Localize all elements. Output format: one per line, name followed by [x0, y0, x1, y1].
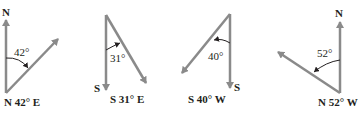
angle-label: 31°	[110, 52, 125, 64]
bearing-label: N 42° E	[4, 96, 40, 108]
reference-label: S	[94, 82, 100, 94]
bearing-vector-arrow	[182, 14, 230, 73]
angle-label: 42°	[14, 46, 29, 58]
angle-arc-icon	[214, 39, 230, 43]
reference-label: N	[2, 6, 10, 18]
bearing-vector-arrow	[106, 15, 146, 83]
angle-arc-icon	[314, 60, 340, 72]
bearings-diagram: N 42° N 42° E 31° S S 31° E 40° S S 40° …	[0, 0, 364, 118]
angle-label: 40°	[208, 50, 223, 62]
reference-label: S	[234, 81, 240, 93]
panel-n52w: N 52° N 52° W	[278, 7, 358, 108]
angle-label: 52°	[317, 47, 332, 59]
bearing-label: N 52° W	[318, 96, 358, 108]
angle-arc-icon	[6, 58, 28, 68]
bearing-label: S 31° E	[110, 93, 144, 105]
panel-n42e: N 42° N 42° E	[2, 6, 58, 108]
bearing-label: S 40° W	[188, 93, 226, 105]
panel-s31e: 31° S S 31° E	[94, 15, 146, 105]
reference-label: N	[335, 7, 343, 19]
angle-arc-icon	[106, 43, 120, 50]
panel-s40w: 40° S S 40° W	[182, 14, 240, 105]
